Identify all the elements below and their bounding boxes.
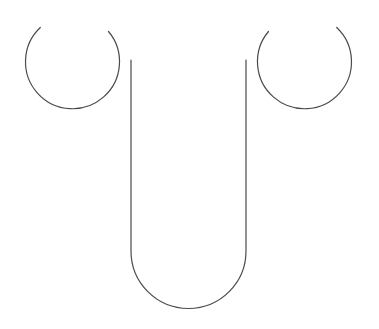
- canvas-background: [0, 0, 379, 329]
- figure-svg: [0, 0, 379, 329]
- drawing-canvas: [0, 0, 379, 329]
